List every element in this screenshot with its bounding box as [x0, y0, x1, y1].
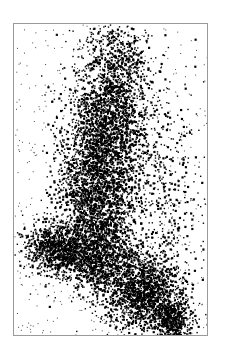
- density-scatter-plot: [14, 24, 207, 335]
- scatter-plot-frame: [13, 23, 208, 336]
